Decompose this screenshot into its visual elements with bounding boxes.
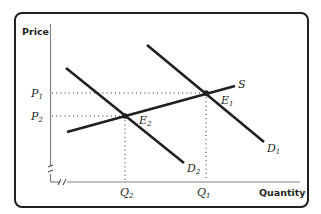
quantity-label-q2: Q2 xyxy=(120,186,134,200)
diagram-frame xyxy=(15,13,308,207)
x-axis-break-icon xyxy=(58,179,66,185)
demand-label-d1: D1 xyxy=(266,142,280,156)
equilibrium-e2-dot xyxy=(122,113,128,119)
price-label-p1: P1 xyxy=(30,87,43,101)
equilibrium-label-e2: E2 xyxy=(138,114,152,128)
supply-demand-diagram: Price Quantity P1 P2 Q2 Q1 S D1 D2 E1 E2 xyxy=(0,0,321,214)
supply-label: S xyxy=(238,78,246,91)
price-label-p2: P2 xyxy=(30,110,43,124)
equilibrium-e1-dot xyxy=(203,90,209,96)
equilibrium-label-e1: E1 xyxy=(220,94,234,108)
demand-label-d2: D2 xyxy=(186,162,201,176)
guide-lines xyxy=(52,93,206,181)
curves xyxy=(66,45,264,163)
y-axis-title: Price xyxy=(22,26,49,37)
axes xyxy=(48,24,300,185)
quantity-label-q1: Q1 xyxy=(197,186,211,200)
x-axis-title: Quantity xyxy=(259,187,306,198)
y-axis-break-icon xyxy=(48,165,53,172)
